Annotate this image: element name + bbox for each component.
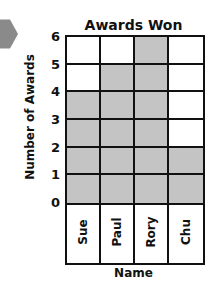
y-tick-5: 5 [46,58,60,72]
hexagon-icon [0,18,18,50]
grid-cell [67,92,101,120]
category-rory: Rory [135,201,169,263]
grid-cell [169,92,203,120]
y-tick-2: 2 [46,141,60,155]
chart-title: Awards Won [65,17,202,33]
category-label: Chu [179,219,193,245]
x-axis-label: Name [65,266,202,280]
grid-cell [135,120,169,148]
grid-cell [67,65,101,93]
y-tick-1: 1 [46,168,60,182]
category-paul: Paul [101,201,135,263]
category-labels: SuePaulRoryChu [65,201,205,265]
grid-cell [135,148,169,176]
y-tick-3: 3 [46,113,60,127]
grid-cell [101,37,135,65]
category-label: Sue [76,219,90,244]
y-tick-0: 0 [46,196,60,210]
category-sue: Sue [67,201,101,263]
grid-cell [67,148,101,176]
grid-cell [169,175,203,203]
grid-cell [169,120,203,148]
grid-cell [67,120,101,148]
grid-cell [67,175,101,203]
grid-cell [101,120,135,148]
y-axis-label: Number of Awards [23,47,37,187]
grid-cell [169,148,203,176]
grid-cell [169,65,203,93]
grid-cell [101,65,135,93]
y-tick-6: 6 [46,30,60,44]
y-tick-4: 4 [46,85,60,99]
plot-area [65,35,205,205]
category-label: Paul [110,217,124,246]
grid-cell [135,175,169,203]
category-label: Rory [144,216,158,247]
grid-cell [67,37,101,65]
grid-cell [101,175,135,203]
grid-cell [101,148,135,176]
grid-cell [135,65,169,93]
grid-cell [135,37,169,65]
category-chu: Chu [169,201,203,263]
grid-cell [135,92,169,120]
grid-cell [169,37,203,65]
grid-cell [101,92,135,120]
